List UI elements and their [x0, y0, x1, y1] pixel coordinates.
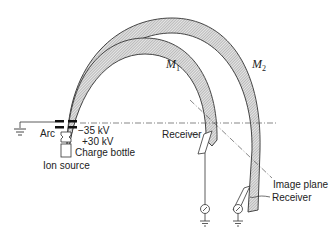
arc-chamber	[61, 132, 71, 142]
label-voltage-pos: +30 kV	[82, 136, 113, 147]
label-image-plane: Image plane	[273, 179, 328, 190]
electrode-plate-4	[68, 126, 77, 129]
label-charge-bottle: Charge bottle	[75, 147, 135, 158]
label-m2: M2	[252, 59, 266, 74]
electrode-plate-3	[55, 126, 64, 129]
label-ion-source: Ion source	[43, 160, 90, 171]
label-arc: Arc	[40, 128, 55, 139]
label-receiver-2: Receiver	[272, 192, 311, 203]
electrode-plate-2	[68, 120, 77, 123]
label-voltage-neg: −35 kV	[78, 125, 109, 136]
label-receiver-1: Receiver	[162, 129, 201, 140]
charge-bottle	[61, 144, 71, 157]
mass-spectrometer-diagram: M1 M2 Arc −35 kV +30 kV Charge bottle Io…	[0, 0, 334, 244]
label-m1: M1	[166, 59, 180, 74]
electrode-plate-1	[55, 120, 64, 123]
diagram-canvas	[0, 0, 334, 244]
